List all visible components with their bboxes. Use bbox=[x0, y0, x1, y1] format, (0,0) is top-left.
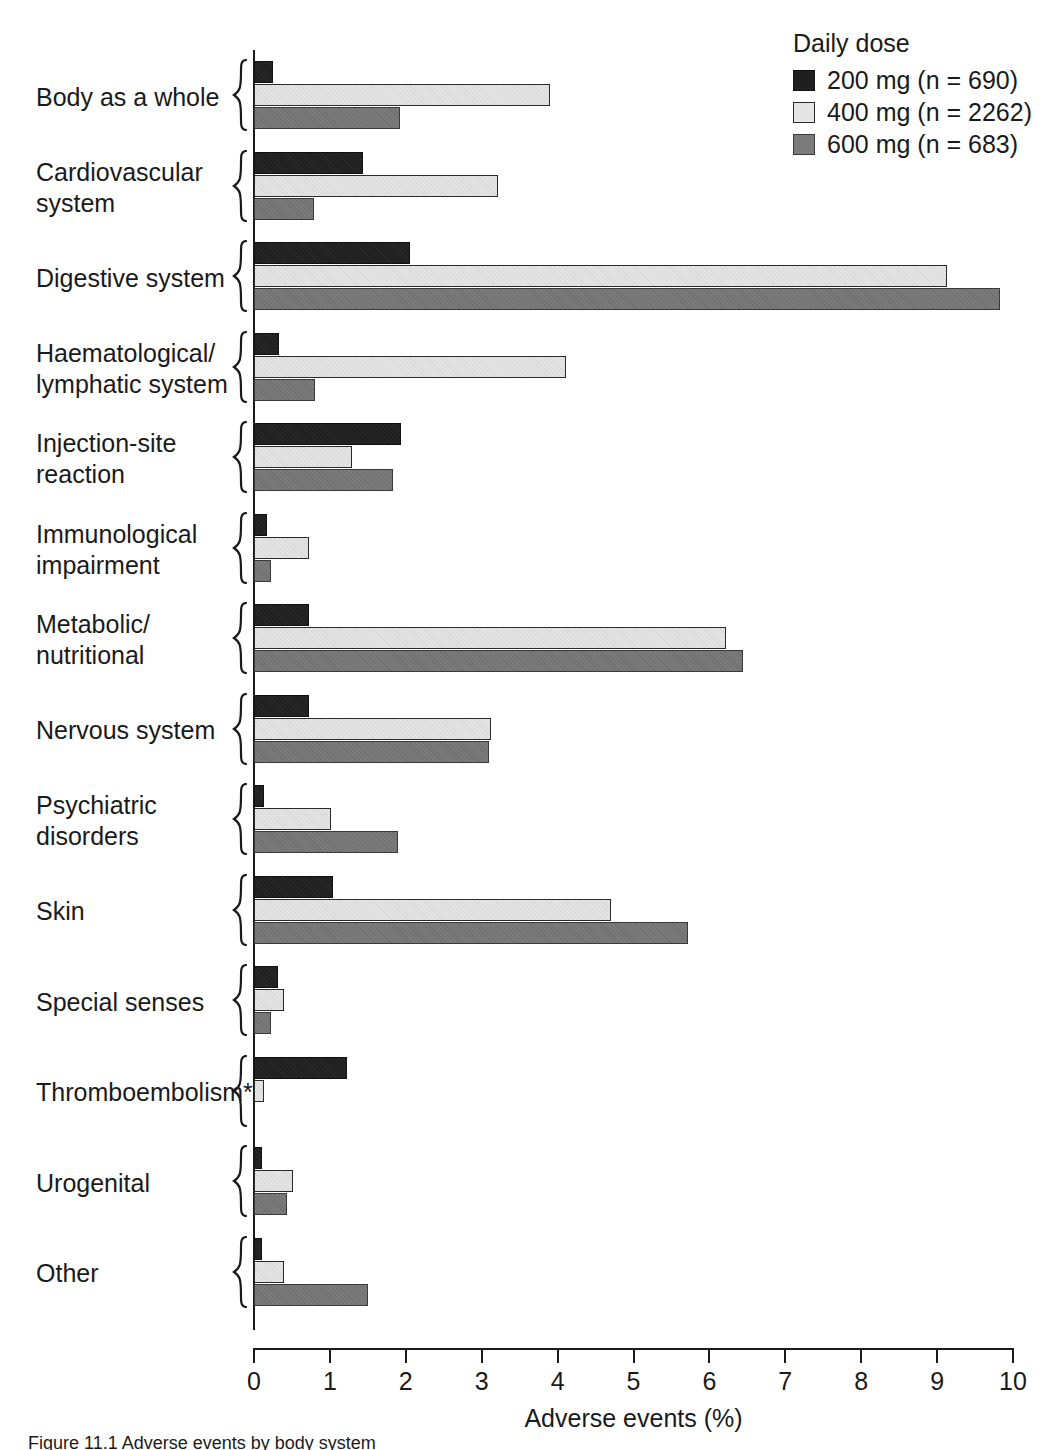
bar-200mg-cardiovascular-system bbox=[254, 152, 363, 174]
category-label-psychiatric-disorders: Psychiatricdisorders bbox=[36, 790, 244, 852]
bar-200mg-thromboembolism bbox=[254, 1057, 347, 1079]
category-label-line: nutritional bbox=[36, 640, 244, 671]
x-axis-tick bbox=[481, 1350, 483, 1363]
bar-200mg-metabolic-nutritional bbox=[254, 604, 309, 626]
bar-400mg-special-senses bbox=[254, 989, 284, 1011]
category-label-line: Metabolic/ bbox=[36, 609, 244, 640]
bar-600mg-digestive-system bbox=[254, 288, 1000, 310]
x-axis-tick bbox=[784, 1350, 786, 1363]
category-label-line: Cardiovascular bbox=[36, 157, 244, 188]
x-axis-tick-label: 10 bbox=[983, 1366, 1043, 1396]
category-label-line: disorders bbox=[36, 821, 244, 852]
category-label-line: Digestive system bbox=[36, 263, 244, 294]
bar-600mg-haematological-lymphatic-system bbox=[254, 379, 315, 401]
x-axis-tick-label: 0 bbox=[224, 1366, 284, 1396]
bar-group bbox=[254, 514, 1013, 586]
category-label-special-senses: Special senses bbox=[36, 987, 244, 1018]
bar-group bbox=[254, 1238, 1013, 1310]
bar-600mg-injection-site-reaction bbox=[254, 469, 393, 491]
x-axis-tick-label: 1 bbox=[300, 1366, 360, 1396]
bar-200mg-special-senses bbox=[254, 966, 278, 988]
bar-400mg-skin bbox=[254, 899, 611, 921]
bar-400mg-digestive-system bbox=[254, 265, 947, 287]
bar-400mg-urogenital bbox=[254, 1170, 293, 1192]
x-axis-tick-label: 4 bbox=[528, 1366, 588, 1396]
category-label-line: Immunological bbox=[36, 519, 244, 550]
category-label-line: Other bbox=[36, 1258, 244, 1289]
x-axis-tick-label: 2 bbox=[376, 1366, 436, 1396]
x-axis-tick-label: 6 bbox=[679, 1366, 739, 1396]
bar-600mg-nervous-system bbox=[254, 741, 489, 763]
x-axis-tick-label: 7 bbox=[755, 1366, 815, 1396]
bar-group bbox=[254, 785, 1013, 857]
bar-400mg-metabolic-nutritional bbox=[254, 627, 726, 649]
bar-group bbox=[254, 1057, 1013, 1129]
x-axis-tick bbox=[557, 1350, 559, 1363]
category-label-line: Skin bbox=[36, 896, 244, 927]
bar-400mg-other bbox=[254, 1261, 284, 1283]
figure-caption: Figure 11.1 Adverse events by body syste… bbox=[28, 1432, 1028, 1450]
bar-400mg-cardiovascular-system bbox=[254, 175, 498, 197]
bar-group bbox=[254, 966, 1013, 1038]
category-label-urogenital: Urogenital bbox=[36, 1168, 244, 1199]
x-axis-tick-label: 5 bbox=[604, 1366, 664, 1396]
plot-area bbox=[254, 50, 1013, 1330]
bar-600mg-metabolic-nutritional bbox=[254, 650, 743, 672]
bar-400mg-haematological-lymphatic-system bbox=[254, 356, 566, 378]
x-axis-tick bbox=[405, 1350, 407, 1363]
bar-600mg-cardiovascular-system bbox=[254, 198, 314, 220]
category-label-line: lymphatic system bbox=[36, 369, 244, 400]
category-label-haematological-lymphatic-system: Haematological/lymphatic system bbox=[36, 338, 244, 400]
bar-group bbox=[254, 423, 1013, 495]
category-label-cardiovascular-system: Cardiovascularsystem bbox=[36, 157, 244, 219]
bar-600mg-urogenital bbox=[254, 1193, 287, 1215]
x-axis-tick bbox=[633, 1350, 635, 1363]
category-label-body-as-a-whole: Body as a whole bbox=[36, 82, 244, 113]
bar-group bbox=[254, 1147, 1013, 1219]
bar-group bbox=[254, 604, 1013, 676]
bar-group bbox=[254, 242, 1013, 314]
bar-400mg-thromboembolism bbox=[254, 1080, 264, 1102]
bar-200mg-skin bbox=[254, 876, 333, 898]
bar-400mg-immunological-impairment bbox=[254, 537, 309, 559]
bar-400mg-injection-site-reaction bbox=[254, 446, 352, 468]
x-axis-tick-label: 8 bbox=[831, 1366, 891, 1396]
category-label-line: Body as a whole bbox=[36, 82, 244, 113]
bar-600mg-body-as-a-whole bbox=[254, 107, 400, 129]
bar-200mg-immunological-impairment bbox=[254, 514, 267, 536]
category-label-line: Nervous system bbox=[36, 715, 244, 746]
x-axis-tick bbox=[329, 1350, 331, 1363]
bar-200mg-nervous-system bbox=[254, 695, 309, 717]
category-label-line: impairment bbox=[36, 550, 244, 581]
category-label-line: Injection-site bbox=[36, 428, 244, 459]
figure-adverse-events-bar-chart: Daily dose 200 mg (n = 690) 400 mg (n = … bbox=[0, 0, 1051, 1450]
category-label-line: Psychiatric bbox=[36, 790, 244, 821]
category-label-immunological-impairment: Immunologicalimpairment bbox=[36, 519, 244, 581]
bar-600mg-other bbox=[254, 1284, 368, 1306]
bar-200mg-urogenital bbox=[254, 1147, 262, 1169]
category-label-digestive-system: Digestive system bbox=[36, 263, 244, 294]
x-axis-tick bbox=[936, 1350, 938, 1363]
bar-group bbox=[254, 333, 1013, 405]
bar-400mg-nervous-system bbox=[254, 718, 491, 740]
bar-400mg-psychiatric-disorders bbox=[254, 808, 331, 830]
x-axis-tick-label: 9 bbox=[907, 1366, 967, 1396]
category-label-line: system bbox=[36, 188, 244, 219]
bar-200mg-haematological-lymphatic-system bbox=[254, 333, 279, 355]
category-label-skin: Skin bbox=[36, 896, 244, 927]
category-label-line: Haematological/ bbox=[36, 338, 244, 369]
bar-600mg-special-senses bbox=[254, 1012, 271, 1034]
category-label-line: Special senses bbox=[36, 987, 244, 1018]
bar-600mg-psychiatric-disorders bbox=[254, 831, 398, 853]
bar-200mg-digestive-system bbox=[254, 242, 410, 264]
bar-200mg-psychiatric-disorders bbox=[254, 785, 264, 807]
bar-group bbox=[254, 152, 1013, 224]
x-axis-tick bbox=[253, 1350, 255, 1363]
x-axis-tick bbox=[708, 1350, 710, 1363]
category-label-injection-site-reaction: Injection-sitereaction bbox=[36, 428, 244, 490]
category-label-line: Urogenital bbox=[36, 1168, 244, 1199]
x-axis-tick bbox=[860, 1350, 862, 1363]
bar-group bbox=[254, 61, 1013, 133]
category-label-nervous-system: Nervous system bbox=[36, 715, 244, 746]
bar-group bbox=[254, 876, 1013, 948]
